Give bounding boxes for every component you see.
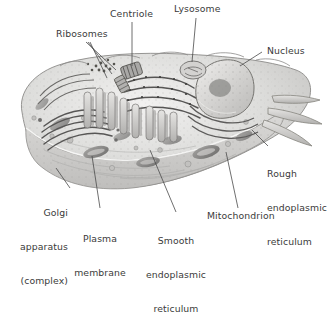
label-plasma-membrane: Plasma membrane: [56, 211, 144, 301]
label-golgi-apparatus: Golgi apparatus (complex): [0, 185, 68, 308]
label-smooth-er-line3: reticulum: [130, 303, 222, 314]
label-plasma-membrane-line2: membrane: [56, 267, 144, 278]
label-plasma-membrane-line1: Plasma: [56, 233, 144, 244]
label-rough-er-line1: Rough: [267, 168, 327, 179]
leader-mitochondrion: [226, 152, 238, 208]
label-rough-er-line2: endoplasmic: [267, 202, 327, 213]
label-centriole: Centriole: [110, 8, 153, 19]
label-golgi-line3: (complex): [0, 275, 68, 286]
label-ribosomes: Ribosomes: [56, 28, 108, 39]
label-nucleus: Nucleus: [267, 45, 305, 56]
label-golgi-line2: apparatus: [0, 241, 68, 252]
label-golgi-line1: Golgi: [0, 207, 68, 218]
label-lysosome: Lysosome: [174, 3, 220, 14]
label-rough-er-line3: reticulum: [267, 236, 327, 247]
nucleolus: [209, 79, 231, 97]
lysosome: [180, 61, 206, 79]
label-rough-endoplasmic-reticulum: Rough endoplasmic reticulum: [267, 146, 327, 269]
